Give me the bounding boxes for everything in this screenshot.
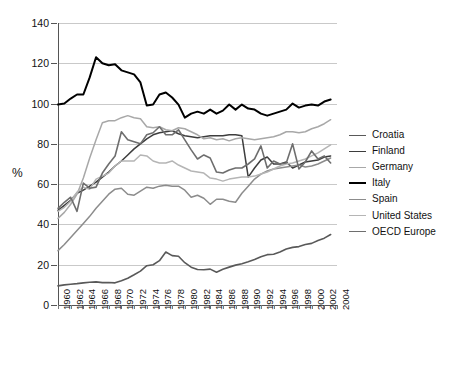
legend-swatch-icon	[349, 231, 366, 232]
legend-label: Germany	[372, 162, 413, 172]
y-tick-label: 20	[15, 260, 49, 270]
legend-swatch-icon	[349, 167, 366, 168]
legend-label: United States	[372, 211, 432, 221]
y-tick	[51, 265, 57, 266]
y-tick	[51, 184, 57, 185]
y-tick-label: 40	[15, 219, 49, 229]
y-tick-label: 0	[15, 300, 49, 310]
legend-swatch-icon	[349, 199, 366, 200]
y-tick-label: 60	[15, 179, 49, 189]
series-line-croatia	[58, 235, 331, 286]
series-line-finland	[58, 131, 331, 211]
legend-swatch-icon	[349, 215, 366, 216]
line-chart: % 020406080100120140 1960196219641966196…	[0, 0, 449, 366]
y-axis-title: %	[12, 166, 23, 180]
legend-swatch-icon	[349, 135, 366, 136]
y-tick	[51, 63, 57, 64]
legend-label: Croatia	[372, 130, 404, 140]
plot-area	[58, 23, 337, 305]
legend-item-italy[interactable]: Italy	[349, 175, 449, 191]
legend-label: Italy	[372, 178, 390, 188]
y-tick-label: 120	[15, 58, 49, 68]
legend-swatch-icon	[349, 151, 366, 152]
legend-item-croatia[interactable]: Croatia	[349, 127, 449, 143]
legend-item-finland[interactable]: Finland	[349, 143, 449, 159]
legend-item-spain[interactable]: Spain	[349, 191, 449, 207]
legend-label: Spain	[372, 194, 398, 204]
y-tick	[51, 144, 57, 145]
y-tick-label: 140	[15, 18, 49, 28]
legend-item-germany[interactable]: Germany	[349, 159, 449, 175]
y-tick	[51, 104, 57, 105]
legend-label: OECD Europe	[372, 227, 436, 237]
y-tick-label: 80	[15, 139, 49, 149]
y-tick	[51, 305, 57, 306]
legend-item-oecd-europe[interactable]: OECD Europe	[349, 224, 449, 240]
legend: CroatiaFinlandGermanyItalySpainUnited St…	[349, 127, 449, 240]
legend-item-united-states[interactable]: United States	[349, 207, 449, 223]
x-tick-label: 2004	[341, 289, 351, 310]
series-line-oecd-europe	[58, 127, 331, 212]
series-lines	[58, 23, 337, 305]
legend-swatch-icon	[349, 182, 366, 184]
series-line-italy	[58, 57, 331, 117]
legend-label: Finland	[372, 146, 405, 156]
y-tick	[51, 23, 57, 24]
y-tick	[51, 224, 57, 225]
y-tick-label: 100	[15, 99, 49, 109]
x-tick	[58, 305, 59, 309]
